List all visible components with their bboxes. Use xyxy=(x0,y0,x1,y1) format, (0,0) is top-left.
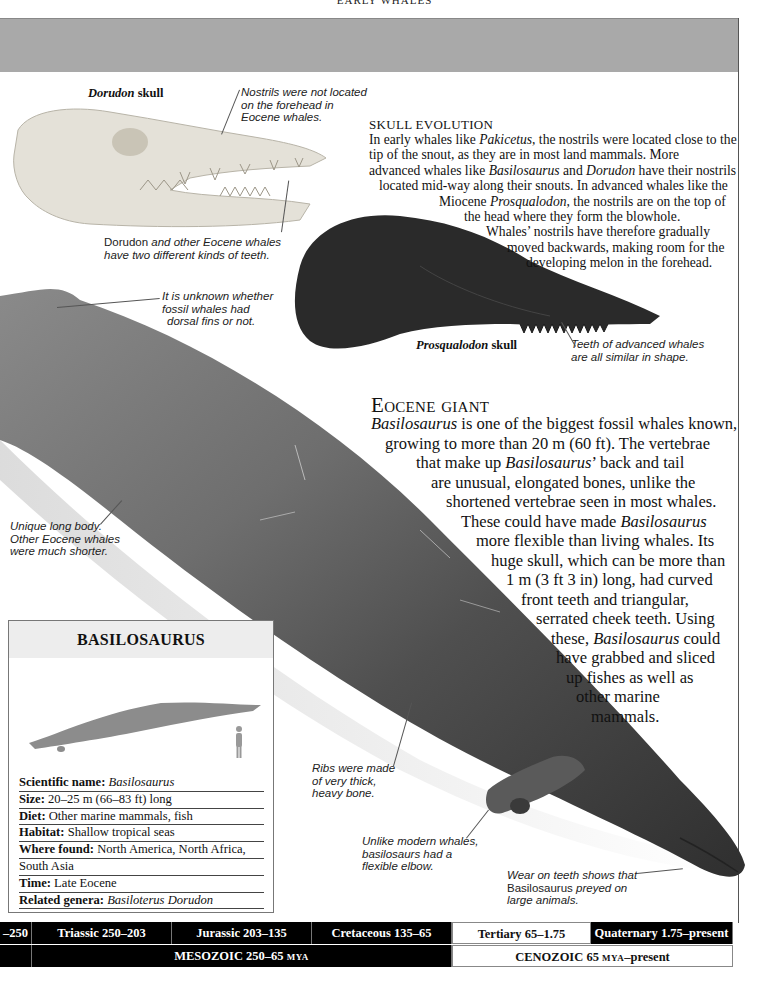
human-scale-icon xyxy=(233,725,245,759)
timeline-period: Jurassic 203–135 xyxy=(172,922,312,944)
text-line: these, Basilosaurus could xyxy=(371,629,741,649)
text-line: located mid-way along their snouts. In a… xyxy=(369,178,739,193)
timeline-period: Triassic 250–203 xyxy=(32,922,172,944)
timeline-period: –250 xyxy=(0,922,32,944)
text-line: are unusual, elongated bones, unlike the xyxy=(371,473,741,493)
fact-row: Scientific name: Basilosaurus xyxy=(19,775,264,792)
text-line: have grabbed and sliced xyxy=(371,648,741,668)
text-line: serrated cheek teeth. Using xyxy=(371,609,741,629)
text-line: shortened vertebrae seen in most whales. xyxy=(371,492,741,512)
caption-prosqualodon-teeth: Teeth of advanced whales are all similar… xyxy=(571,338,704,363)
fact-row: Size: 20–25 m (66–83 ft) long xyxy=(19,792,264,809)
fact-row: Habitat: Shallow tropical seas xyxy=(19,825,264,842)
text-line: In early whales like Pakicetus, the nost… xyxy=(369,132,739,147)
caption-elbow: Unlike modern whales, basilosaurs had a … xyxy=(362,835,478,873)
text-line: front teeth and triangular, xyxy=(371,590,741,610)
text-line: more flexible than living whales. Its xyxy=(371,531,741,551)
text-line: growing to more than 20 m (60 ft). The v… xyxy=(371,434,741,454)
text-line: Whales’ nostrils have therefore graduall… xyxy=(369,224,739,239)
basilosaurus-factbox: BASILOSAURUS Scientific name: Basilosaur… xyxy=(8,620,274,913)
text-line: the head where they form the blowhole. xyxy=(369,209,739,224)
text-line: Miocene Prosqualodon, the nostrils are o… xyxy=(369,194,739,209)
fact-row: Diet: Other marine mammals, fish xyxy=(19,809,264,826)
text-line: up fishes as well as xyxy=(371,668,741,688)
factbox-title: BASILOSAURUS xyxy=(9,621,273,658)
skull-evolution-text: In early whales like Pakicetus, the nost… xyxy=(369,132,739,271)
text-line: Basilosaurus is one of the biggest fossi… xyxy=(371,414,741,434)
skull-evolution-title: SKULL EVOLUTION xyxy=(369,117,493,133)
prosqualodon-skull-label: Prosqualodon skull xyxy=(416,338,517,353)
timeline-era xyxy=(0,945,32,967)
caption-nostrils: Nostrils were not located on the forehea… xyxy=(241,86,367,124)
fact-row: Time: Late Eocene xyxy=(19,876,264,893)
geologic-timeline: –250 Triassic 250–203 Jurassic 203–135 C… xyxy=(0,922,733,967)
fact-row: Related genera: Basiloterus Dorudon xyxy=(19,893,264,910)
timeline-period: Quaternary 1.75–present xyxy=(591,922,733,944)
timeline-period: Tertiary 65–1.75 xyxy=(452,922,591,944)
text-line: These could have made Basilosaurus xyxy=(371,512,741,532)
fact-row: South Asia xyxy=(19,859,264,876)
text-line: that make up Basilosaurus’ back and tail xyxy=(371,453,741,473)
factbox-rows: Scientific name: BasilosaurusSize: 20–25… xyxy=(19,775,264,909)
caption-dorudon-teeth: Dorudon and other Eocene whales have two… xyxy=(104,236,281,261)
text-line: developing melon in the forehead. xyxy=(369,255,739,270)
text-line: other marine xyxy=(371,687,741,707)
text-line: mammals. xyxy=(371,707,741,727)
caption-dorsal-fin: It is unknown whether fossil whales had … xyxy=(162,290,273,328)
fact-row: Where found: North America, North Africa… xyxy=(19,842,264,859)
text-line: tip of the snout, as they are in most la… xyxy=(369,147,739,162)
caption-teeth-wear: Wear on teeth shows that Basilosaurus pr… xyxy=(507,869,637,907)
timeline-era-cenozoic: CENOZOIC 65 MYA–present xyxy=(452,945,733,967)
size-comparison-silhouette xyxy=(21,693,261,763)
caption-long-body: Unique long body. Other Eocene whales we… xyxy=(10,520,120,558)
text-line: 1 m (3 ft 3 in) long, had curved xyxy=(371,570,741,590)
text-line: moved backwards, making room for the xyxy=(369,240,739,255)
text-line: huge skull, which can be more than xyxy=(371,551,741,571)
timeline-era-mesozoic: MESOZOIC 250–65 MYA xyxy=(32,945,452,967)
text-line: advanced whales like Basilosaurus and Do… xyxy=(369,163,739,178)
eocene-giant-text: Basilosaurus is one of the biggest fossi… xyxy=(371,414,741,726)
dorudon-skull-label: Dorudon skull xyxy=(88,86,163,101)
caption-ribs: Ribs were made of very thick, heavy bone… xyxy=(312,762,395,800)
timeline-period: Cretaceous 135–65 xyxy=(312,922,452,944)
